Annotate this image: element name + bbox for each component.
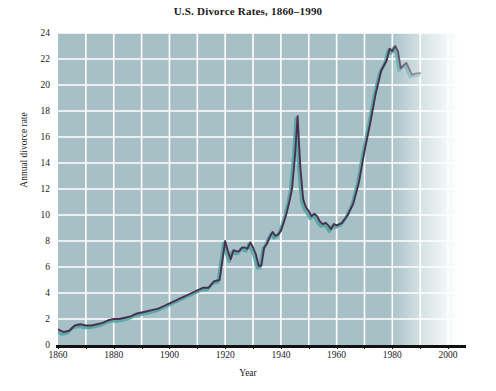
- y-tick-label: 2: [4, 314, 50, 324]
- y-tick-label: 8: [4, 236, 50, 246]
- y-tick-label: 4: [4, 288, 50, 298]
- x-tick-label: 1880: [89, 350, 139, 360]
- gridlines-horizontal: [58, 33, 462, 319]
- x-tick-label: 1980: [367, 350, 417, 360]
- chart-title: U.S. Divorce Rates, 1860–1990: [0, 5, 496, 17]
- y-tick-label: 6: [4, 262, 50, 272]
- x-axis-line: [56, 345, 466, 348]
- x-tick-label: 2000: [423, 350, 473, 360]
- y-axis-title: Annual divorce rate: [19, 65, 29, 235]
- plot-area: [58, 33, 462, 345]
- chart-figure: U.S. Divorce Rates, 1860–1990 0246810121…: [0, 0, 496, 391]
- x-tick-label: 1900: [144, 350, 194, 360]
- x-tick-label: 1920: [200, 350, 250, 360]
- x-tick-label: 1860: [33, 350, 83, 360]
- x-tick-label: 1940: [256, 350, 306, 360]
- y-tick-label: 24: [4, 28, 50, 38]
- y-tick-label: 0: [4, 340, 50, 350]
- x-tick-label: 1960: [312, 350, 362, 360]
- x-axis-title: Year: [0, 368, 496, 378]
- y-tick-label: 22: [4, 54, 50, 64]
- plot-svg: [58, 33, 462, 345]
